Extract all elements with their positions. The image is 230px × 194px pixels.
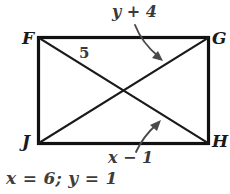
vertex-label-f: F (22, 30, 34, 47)
vertex-label-g: G (212, 30, 227, 47)
vertex-label-h: H (212, 133, 228, 150)
top-expression-label: y + 4 (112, 4, 157, 20)
geometry-figure: F G H J 5 y + 4 x − 1 x = 6; y = 1 (0, 0, 230, 194)
vertex-label-j: J (22, 133, 30, 150)
top-annotation-arrow (135, 25, 159, 57)
bottom-expression-label: x − 1 (108, 150, 153, 166)
segment-length-label: 5 (79, 46, 89, 61)
answer-text: x = 6; y = 1 (6, 170, 118, 187)
